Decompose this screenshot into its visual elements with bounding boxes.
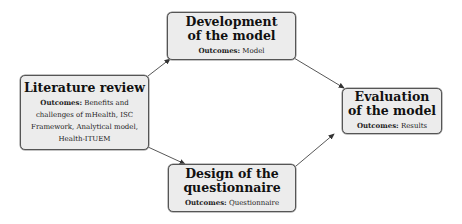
- arrow-design-to-evaluation: [296, 134, 334, 166]
- arrow-development-to-evaluation: [294, 58, 344, 88]
- outcomes-text: Questionnaire: [229, 199, 279, 207]
- node-title-line1: Development: [186, 15, 278, 29]
- node-outcomes: Outcomes: Benefits and challenges of mHe…: [29, 97, 141, 145]
- node-outcomes: Outcomes: Model: [198, 45, 264, 57]
- node-development-of-model: Development of the model Outcomes: Model: [167, 12, 296, 60]
- outcomes-label: Outcomes:: [357, 121, 399, 130]
- node-outcomes: Outcomes: Questionnaire: [185, 197, 279, 209]
- node-title-line2: of the model: [187, 29, 275, 43]
- outcomes-label: Outcomes:: [198, 46, 240, 55]
- node-title-line1: Design of the: [185, 167, 279, 181]
- node-title-line2: questionnaire: [183, 181, 280, 195]
- outcomes-label: Outcomes:: [185, 198, 227, 207]
- node-outcomes: Outcomes: Results: [357, 120, 427, 132]
- outcomes-text: Results: [401, 122, 427, 130]
- node-title-line1: Evaluation: [355, 90, 430, 104]
- outcomes-label: Outcomes:: [40, 98, 82, 107]
- node-evaluation-of-model: Evaluation of the model Outcomes: Result…: [342, 88, 442, 134]
- arrow-literature-to-development: [148, 59, 170, 76]
- node-title-line2: of the model: [348, 104, 436, 118]
- arrow-literature-to-design: [148, 147, 185, 164]
- node-design-of-questionnaire: Design of the questionnaire Outcomes: Qu…: [168, 164, 296, 212]
- node-literature-review: Literature review Outcomes: Benefits and…: [20, 75, 149, 150]
- outcomes-text: Model: [242, 47, 264, 55]
- node-title: Literature review: [24, 81, 145, 95]
